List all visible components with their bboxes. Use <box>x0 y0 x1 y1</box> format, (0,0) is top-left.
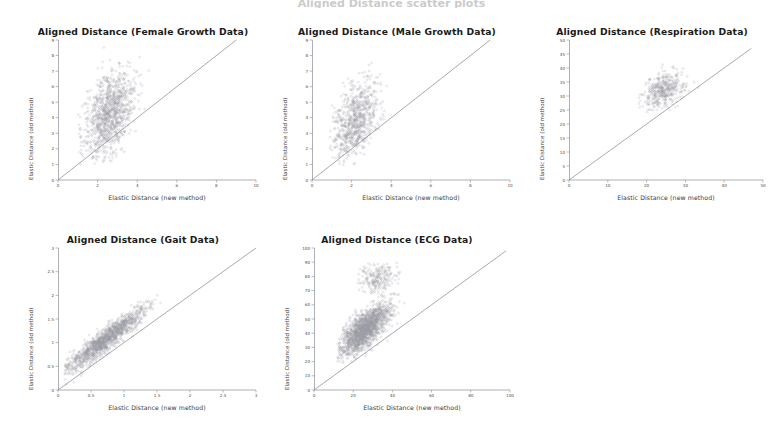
plot-area-male-growth: 02468100123456789 <box>312 40 510 180</box>
data-points-female-growth <box>77 47 149 165</box>
svg-text:0.5: 0.5 <box>47 364 54 369</box>
chart-title-female-growth: Aligned Distance (Female Growth Data) <box>18 26 268 37</box>
svg-text:30: 30 <box>560 94 566 99</box>
svg-text:100: 100 <box>302 246 310 251</box>
svg-text:2: 2 <box>51 146 54 151</box>
svg-text:8: 8 <box>305 53 308 58</box>
svg-text:2.5: 2.5 <box>47 269 54 274</box>
x-axis-label-gait: Elastic Distance (new method) <box>58 404 256 411</box>
svg-text:10: 10 <box>507 183 513 188</box>
plot-area-respiration: 0102030405005101520253035404550 <box>569 40 763 180</box>
data-points-respiration <box>638 64 699 113</box>
x-axis-label-female-growth: Elastic Distance (new method) <box>58 194 256 201</box>
svg-text:2: 2 <box>189 393 192 398</box>
svg-text:0: 0 <box>305 178 308 183</box>
svg-text:8: 8 <box>51 53 54 58</box>
plot-area-gait: 00.511.522.5300.511.522.53 <box>58 248 256 390</box>
svg-text:6: 6 <box>51 84 54 89</box>
svg-text:1: 1 <box>123 393 126 398</box>
plot-canvas-female-growth: 02468100123456789 <box>58 40 256 180</box>
cropped-header-text: Aligned Distance scatter plots <box>0 0 783 8</box>
y-axis-label-ecg: Elastic Distance (old method) <box>284 308 290 390</box>
x-axis-label-male-growth: Elastic Distance (new method) <box>312 194 510 201</box>
svg-text:70: 70 <box>305 288 311 293</box>
svg-text:50: 50 <box>760 183 766 188</box>
svg-text:3: 3 <box>305 131 308 136</box>
svg-text:0: 0 <box>311 183 314 188</box>
chart-title-respiration: Aligned Distance (Respiration Data) <box>527 26 777 37</box>
svg-text:0: 0 <box>51 388 54 393</box>
svg-text:9: 9 <box>305 38 308 43</box>
svg-text:20: 20 <box>644 183 650 188</box>
data-points-ecg <box>337 293 406 364</box>
svg-text:1: 1 <box>51 340 54 345</box>
svg-text:5: 5 <box>51 100 54 105</box>
svg-text:2: 2 <box>350 183 353 188</box>
svg-text:50: 50 <box>560 38 566 43</box>
svg-text:0.5: 0.5 <box>88 393 95 398</box>
svg-text:90: 90 <box>305 260 311 265</box>
svg-text:10: 10 <box>560 150 566 155</box>
svg-text:1.5: 1.5 <box>154 393 161 398</box>
svg-text:15: 15 <box>560 136 566 141</box>
svg-text:7: 7 <box>51 69 54 74</box>
svg-text:10: 10 <box>253 183 259 188</box>
reference-line-ecg <box>314 251 506 390</box>
svg-text:25: 25 <box>560 108 566 113</box>
svg-text:20: 20 <box>351 393 357 398</box>
svg-text:60: 60 <box>429 393 435 398</box>
svg-text:50: 50 <box>305 317 311 322</box>
svg-text:8: 8 <box>469 183 472 188</box>
svg-text:0: 0 <box>562 178 565 183</box>
plot-area-female-growth: 02468100123456789 <box>58 40 256 180</box>
svg-text:40: 40 <box>722 183 728 188</box>
chart-panel-respiration: Aligned Distance (Respiration Data)Elast… <box>527 26 777 211</box>
svg-text:3: 3 <box>51 246 54 251</box>
svg-text:0: 0 <box>313 393 316 398</box>
reference-line-gait <box>58 248 256 390</box>
chart-title-ecg: Aligned Distance (ECG Data) <box>272 234 522 245</box>
ticks-male-growth: 02468100123456789 <box>305 38 513 189</box>
svg-text:6: 6 <box>429 183 432 188</box>
data-points-male-growth <box>329 62 388 166</box>
svg-text:2.5: 2.5 <box>220 393 227 398</box>
svg-text:8: 8 <box>215 183 218 188</box>
svg-text:4: 4 <box>51 115 54 120</box>
data-points-secondary-ecg <box>357 262 401 297</box>
svg-text:4: 4 <box>305 115 308 120</box>
svg-text:40: 40 <box>305 331 311 336</box>
svg-text:0: 0 <box>307 388 310 393</box>
svg-text:2: 2 <box>51 293 54 298</box>
svg-text:6: 6 <box>305 84 308 89</box>
svg-text:45: 45 <box>560 52 566 57</box>
chart-title-male-growth: Aligned Distance (Male Growth Data) <box>272 26 522 37</box>
svg-text:35: 35 <box>560 80 566 85</box>
x-axis-label-respiration: Elastic Distance (new method) <box>569 194 763 201</box>
y-axis-label-respiration: Elastic Distance (old method) <box>539 98 545 180</box>
svg-text:1: 1 <box>51 162 54 167</box>
chart-panel-female-growth: Aligned Distance (Female Growth Data)Ela… <box>18 26 268 211</box>
svg-text:30: 30 <box>683 183 689 188</box>
chart-panel-ecg: Aligned Distance (ECG Data)Elastic Dista… <box>272 234 522 424</box>
x-axis-label-ecg: Elastic Distance (new method) <box>314 404 510 411</box>
svg-text:4: 4 <box>136 183 139 188</box>
y-axis-label-gait: Elastic Distance (old method) <box>28 308 34 390</box>
y-axis-label-female-growth: Elastic Distance (old method) <box>28 98 34 180</box>
y-axis-label-male-growth: Elastic Distance (old method) <box>282 98 288 180</box>
svg-text:100: 100 <box>506 393 514 398</box>
svg-text:80: 80 <box>305 274 311 279</box>
svg-text:1.5: 1.5 <box>47 317 54 322</box>
svg-text:7: 7 <box>305 69 308 74</box>
svg-text:2: 2 <box>96 183 99 188</box>
svg-text:0: 0 <box>568 183 571 188</box>
svg-text:3: 3 <box>51 131 54 136</box>
data-points-gait <box>64 294 162 385</box>
chart-title-gait: Aligned Distance (Gait Data) <box>18 234 268 245</box>
svg-text:5: 5 <box>562 164 565 169</box>
figure-root: Aligned Distance scatter plots Aligned D… <box>0 0 783 434</box>
svg-text:3: 3 <box>255 393 258 398</box>
plot-canvas-respiration: 0102030405005101520253035404550 <box>569 40 763 180</box>
plot-area-ecg: 0204060801000102030405060708090100 <box>314 248 510 390</box>
ticks-female-growth: 02468100123456789 <box>51 38 259 189</box>
svg-text:80: 80 <box>468 393 474 398</box>
